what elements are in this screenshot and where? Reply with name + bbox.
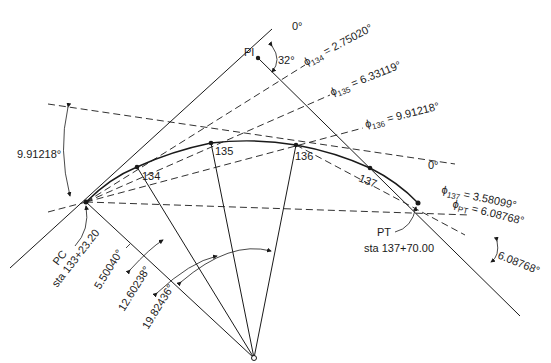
curve-diagram: PI 0° 32° 0° 134 135 136 137 ϕ134 = 2.75… (0, 0, 551, 363)
pc-reference-line (48, 202, 86, 212)
central-angle-134-label: 5.50040° (92, 247, 126, 291)
deflection-line-137 (86, 202, 470, 215)
pi-angle-arc (272, 46, 277, 72)
central-134-leader (126, 244, 130, 248)
circular-curve (86, 141, 418, 203)
pt-angle-label: 6.08768° (496, 249, 541, 277)
station-135-point (209, 141, 214, 146)
left-angle-arc (63, 107, 70, 196)
station-135-label: 135 (215, 145, 233, 157)
central-angle-136-label: 19.82436° (140, 282, 177, 331)
intersection-angle-label: 32° (278, 54, 295, 66)
central-angle-135-label: 12.60238° (116, 264, 153, 313)
pi-label: PI (244, 46, 254, 58)
forward-tangent-line (258, 58, 520, 316)
deflection-line-134 (86, 65, 305, 202)
pc-point (84, 200, 89, 205)
radius-135 (211, 143, 254, 358)
radius-136 (254, 145, 296, 358)
deflection-line-135 (86, 95, 330, 202)
chord-136-pt-line (296, 145, 465, 235)
pi-point (256, 56, 260, 60)
pt-point (416, 201, 421, 206)
zero-degree-label-2: 0° (428, 159, 439, 171)
deflection-134-label: ϕ134 = 2.75020° (301, 21, 375, 70)
radius-pc (86, 202, 254, 358)
station-136-point (294, 143, 299, 148)
central-angle-arc-136 (181, 249, 271, 282)
station-134-point (135, 165, 140, 170)
station-137-point (368, 166, 373, 171)
radius-134 (137, 167, 254, 358)
zero-degree-label: 0° (292, 20, 303, 32)
station-136-label: 136 (295, 150, 313, 162)
left-angle-label: 9.91218° (17, 148, 61, 160)
pt-station-label: sta 137+70.00 (364, 242, 434, 254)
central-angle-arc-134 (130, 240, 163, 270)
pt-label: PT (377, 226, 391, 238)
curve-center-point (252, 356, 257, 361)
deflection-136-label: ϕ136 = 9.91218° (364, 100, 442, 133)
deflection-line-136 (86, 128, 363, 202)
station-134-label: 134 (142, 170, 160, 182)
deflection-135-label: ϕ135 = 6.33119° (328, 58, 404, 100)
